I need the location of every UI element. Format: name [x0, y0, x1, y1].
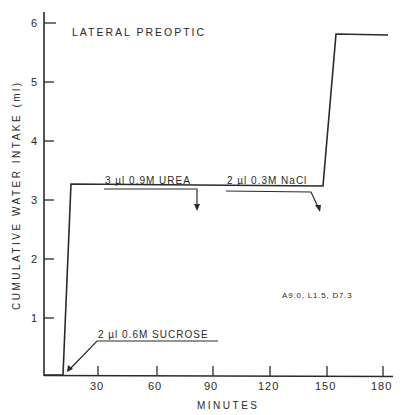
x-axis-label: MINUTES: [197, 400, 260, 411]
annotation-nacl: 2 µl 0.3M NaCl: [227, 175, 307, 186]
y-axis-label: CUMULATIVE WATER INTAKE (ml): [11, 80, 22, 310]
annotation-sucrose-leader: [69, 341, 218, 370]
chart-svg: 6 5 4 3 2 1 30 60 90 120 150 180 MINUTES…: [0, 0, 405, 415]
chart-title: LATERAL PREOPTIC: [72, 26, 206, 38]
y-ticks: [44, 23, 56, 318]
annotation-sucrose: 2 µl 0.6M SUCROSE: [98, 329, 209, 340]
x-tick-90: 90: [204, 380, 218, 392]
annotation-urea-leader: [104, 189, 197, 208]
data-line-cumulative-intake: [44, 34, 388, 375]
x-tick-150: 150: [315, 380, 336, 392]
arrow-icon: [194, 204, 200, 211]
annotation-urea: 3 µl 0.9M UREA: [105, 175, 191, 186]
y-tick-3: 3: [31, 194, 38, 206]
x-axis: [44, 376, 393, 377]
y-tick-2: 2: [31, 253, 38, 265]
y-tick-1: 1: [31, 312, 38, 324]
x-tick-180: 180: [371, 380, 392, 392]
coordinates-label: A9.0, L1.5, D7.3: [282, 291, 353, 300]
arrow-icon: [315, 205, 321, 212]
x-tick-120: 120: [258, 380, 279, 392]
annotation-nacl-leader: [226, 191, 319, 209]
y-tick-4: 4: [31, 135, 38, 147]
x-tick-60: 60: [148, 380, 162, 392]
y-tick-6: 6: [31, 17, 38, 29]
y-tick-5: 5: [31, 76, 38, 88]
x-tick-30: 30: [90, 380, 104, 392]
chart-container: 6 5 4 3 2 1 30 60 90 120 150 180 MINUTES…: [0, 0, 405, 415]
